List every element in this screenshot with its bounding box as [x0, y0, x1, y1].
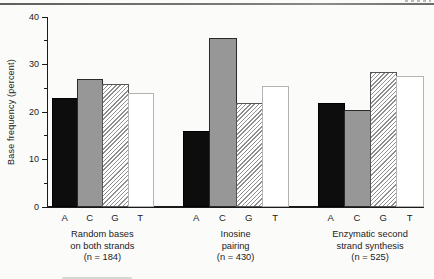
x-base-label: T [266, 213, 284, 223]
bar-c-group2 [209, 38, 236, 207]
bar-t-group1 [128, 93, 154, 207]
x-base-label: T [131, 213, 149, 223]
x-base-label: A [56, 213, 74, 223]
y-tick-label: 30 [23, 60, 39, 69]
clipped-header-fragment [405, 0, 431, 2]
group-caption: Inosinepairing(n = 430) [217, 229, 254, 264]
y-tick-label: 20 [23, 108, 39, 117]
y-tick-major [42, 159, 47, 160]
x-base-label: G [240, 213, 258, 223]
bar-c-group1 [77, 79, 103, 207]
bar-t-group2 [262, 86, 289, 207]
bar-a-group3 [318, 103, 345, 208]
bar-c-group3 [344, 110, 371, 207]
x-base-label: G [374, 213, 392, 223]
y-tick-major [42, 17, 47, 18]
top-rule [0, 3, 434, 5]
caption-line: (n = 525) [332, 252, 407, 264]
y-tick-label: 0 [23, 203, 39, 212]
caption-line: (n = 430) [217, 252, 254, 264]
x-base-label: A [187, 213, 205, 223]
bar-g-group1 [102, 84, 128, 208]
group-caption: Enzymatic secondstrand synthesis(n = 525… [332, 229, 407, 264]
y-tick-minor [44, 40, 47, 41]
caption-line: (n = 184) [70, 252, 134, 264]
y-axis-line [47, 17, 48, 207]
bar-g-group3 [370, 72, 397, 207]
y-tick-minor [44, 88, 47, 89]
caption-line: on both strands [70, 241, 134, 253]
y-tick-minor [44, 135, 47, 136]
figure-page: Base frequency (percent) 010203040ACGTRa… [0, 0, 434, 279]
caption-line: Inosine [217, 229, 254, 241]
x-base-label: G [106, 213, 124, 223]
caption-line: pairing [217, 241, 254, 253]
x-base-label: A [322, 213, 340, 223]
y-tick-major [42, 112, 47, 113]
bar-t-group3 [396, 76, 423, 207]
y-tick-major [42, 64, 47, 65]
caption-line: Enzymatic second [332, 229, 407, 241]
x-base-label: C [348, 213, 366, 223]
group-caption: Random baseson both strands(n = 184) [70, 229, 134, 264]
x-base-label: T [401, 213, 419, 223]
y-axis-label: Base frequency (percent) [6, 59, 16, 165]
bar-a-group2 [183, 131, 210, 207]
y-tick-label: 40 [23, 13, 39, 22]
y-tick-minor [44, 183, 47, 184]
caption-line: strand synthesis [332, 241, 407, 253]
x-base-label: C [81, 213, 99, 223]
bar-g-group2 [236, 103, 263, 208]
y-tick-label: 10 [23, 155, 39, 164]
y-tick-major [42, 207, 47, 208]
caption-line: Random bases [70, 229, 134, 241]
x-base-label: C [213, 213, 231, 223]
bar-a-group1 [52, 98, 78, 207]
